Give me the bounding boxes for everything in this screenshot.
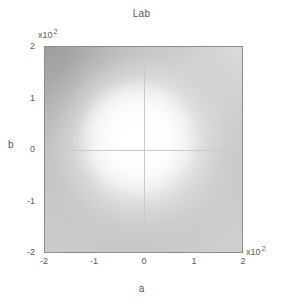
y-tick-label-neg1: -1	[15, 196, 35, 206]
gamut-boundary-contour	[107, 94, 183, 180]
x-tick-label-neg1: -1	[84, 256, 104, 266]
y-axis-label: b	[8, 139, 14, 150]
y-multiplier-exponent: 2	[54, 27, 58, 36]
x-tick-label-0: 0	[134, 256, 154, 266]
y-tick-mark-0	[44, 150, 45, 151]
y-tick-label-neg2: -2	[15, 247, 35, 257]
y-tick-mark-1	[44, 98, 45, 99]
y-tick-mark-neg1	[44, 201, 45, 202]
contour-curve-layer	[45, 47, 242, 244]
y-axis-multiplier: x102	[38, 27, 58, 40]
x-tick-label-1: 1	[184, 256, 204, 266]
x-tick-mark-0	[144, 252, 145, 253]
y-tick-label-2: 2	[15, 41, 35, 51]
x-multiplier-exponent: 2	[262, 244, 266, 253]
x-tick-mark-1	[193, 252, 194, 253]
y-tick-label-1: 1	[15, 93, 35, 103]
contour-plot-figure: Lab x102 x102 2 1 0 -1 -2 -2 -1 0 1 2 a …	[0, 0, 283, 303]
x-axis-label: a	[0, 283, 283, 294]
plot-area	[44, 46, 243, 253]
y-multiplier-base: x10	[38, 30, 53, 40]
page-title: Lab	[0, 8, 283, 19]
x-tick-label-2: 2	[233, 256, 253, 266]
y-tick-label-0: 0	[15, 144, 35, 154]
x-tick-label-neg2: -2	[34, 256, 54, 266]
x-tick-mark-neg1	[94, 252, 95, 253]
